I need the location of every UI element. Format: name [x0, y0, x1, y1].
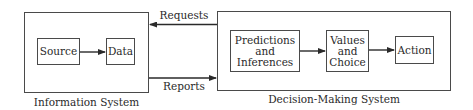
- requests-label: Requests: [158, 9, 210, 21]
- reports-label: Reports: [158, 80, 210, 92]
- information-system-caption: Information System: [24, 96, 149, 108]
- decision-making-system-caption: Decision-Making System: [217, 93, 451, 105]
